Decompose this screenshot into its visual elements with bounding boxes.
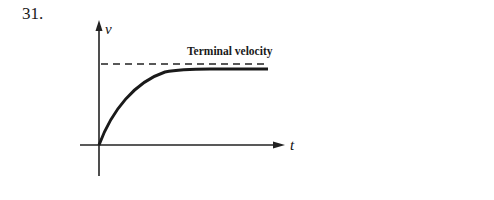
terminal-velocity-label: Terminal velocity [187, 45, 273, 58]
y-axis-arrow-icon [96, 20, 103, 31]
x-axis-label: t [290, 137, 295, 153]
velocity-curve [99, 69, 268, 145]
x-axis-arrow-icon [273, 142, 285, 149]
y-axis-label: v [105, 21, 112, 37]
velocity-time-diagram: v t Terminal velocity [0, 0, 494, 200]
